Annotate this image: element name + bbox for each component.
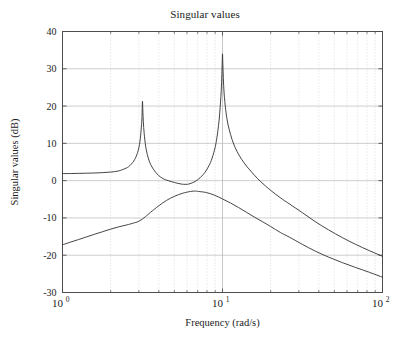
y-tick-label: -20: [43, 250, 56, 261]
y-axis-title: Singular values (dB): [9, 118, 21, 205]
x-axis-title: Frequency (rad/s): [185, 317, 260, 329]
figure-canvas: Singular values -30-20-10010203040 10010…: [0, 0, 410, 337]
svg-text:2: 2: [386, 295, 390, 304]
x-tick-label: 102: [372, 295, 390, 309]
y-tick-label: 0: [52, 175, 57, 186]
y-tick-label: 30: [47, 63, 57, 74]
x-tick-label: 101: [212, 295, 230, 309]
svg-text:10: 10: [372, 297, 384, 309]
y-tick-label: 10: [47, 138, 57, 149]
y-axis-tick-labels: -30-20-10010203040: [43, 26, 56, 298]
x-tick-label: 100: [52, 295, 70, 309]
svg-text:10: 10: [212, 297, 224, 309]
y-tick-label: 40: [47, 26, 57, 37]
svg-text:10: 10: [52, 297, 64, 309]
singular-values-plot: -30-20-10010203040 100101102 Frequency (…: [0, 0, 410, 337]
x-axis-tick-labels: 100101102: [52, 295, 390, 309]
svg-text:0: 0: [66, 295, 70, 304]
y-tick-label: 20: [47, 101, 57, 112]
y-tick-label: -10: [43, 212, 56, 223]
svg-text:1: 1: [226, 295, 230, 304]
